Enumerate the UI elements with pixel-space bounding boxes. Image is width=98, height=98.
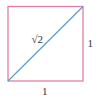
- diagonal-label: √2: [32, 33, 44, 45]
- bottom-side-label: 1: [42, 85, 48, 97]
- right-side-label: 1: [88, 37, 94, 49]
- diagonal-line: [8, 7, 83, 82]
- unit-square-diagram: √2 1 1: [0, 0, 98, 98]
